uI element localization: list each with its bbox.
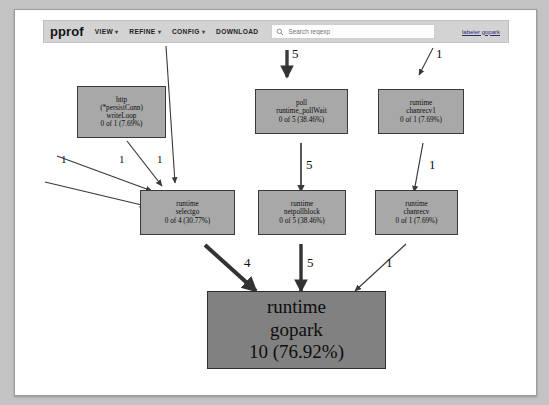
page-sheet: pprof VIEW▾ REFINE▾ CONFIG▾ DOWNLOAD lab: [14, 9, 537, 396]
node-runtime-selectgo[interactable]: runtime selectgo 0 of 4 (30.77%): [140, 190, 235, 235]
edge-label-chanrecv1-to-chanrecv: 1: [429, 157, 436, 173]
node-line: runtime: [405, 200, 427, 208]
edge-top-to-selectgo: [166, 46, 175, 183]
edge-label-writeloop-to-selectgo: 1: [157, 153, 163, 165]
edge-label-selectgo-to-gopark: 4: [244, 255, 251, 271]
node-line: 0 of 5 (38.46%): [279, 116, 325, 124]
edge-chanrecv-to-gopark: [355, 244, 406, 291]
node-line: 0 of 1 (7.69%): [101, 120, 143, 128]
node-line: selectgo: [176, 208, 200, 216]
edge-left-b-to-selectgo: [45, 182, 146, 206]
node-line: runtime: [267, 296, 326, 318]
edge-left-a-to-selectgo: [57, 156, 152, 191]
node-runtime-gopark[interactable]: runtime gopark 10 (76.92%): [207, 291, 386, 369]
node-line: chanrecv1: [406, 107, 436, 115]
edge-label-left-b: 1: [119, 153, 125, 165]
node-line: 0 of 4 (30.77%): [165, 217, 211, 225]
edge-label-chanrecv-to-gopark: 1: [386, 255, 393, 271]
edge-into-chanrecv1: [419, 48, 433, 75]
node-line: 10 (76.92%): [249, 341, 344, 363]
edge-label-left-a: 1: [61, 153, 67, 165]
node-line: runtime: [291, 200, 313, 208]
node-line: 0 of 1 (7.69%): [400, 116, 442, 124]
node-line: netpollblock: [284, 208, 320, 216]
node-http-writeloop[interactable]: http (*persistConn) writeLoop 0 of 1 (7.…: [77, 86, 166, 138]
node-line: 0 of 5 (38.46%): [279, 217, 325, 225]
edge-label-into-chanrecv1: 1: [436, 46, 443, 62]
node-runtime-netpollblock[interactable]: runtime netpollblock 0 of 5 (38.46%): [258, 190, 346, 235]
node-runtime-chanrecv[interactable]: runtime chanrecv 0 of 1 (7.69%): [375, 190, 458, 235]
node-runtime-chanrecv1[interactable]: runtime chanrecv1 0 of 1 (7.69%): [378, 89, 464, 134]
pprof-window: pprof VIEW▾ REFINE▾ CONFIG▾ DOWNLOAD lab: [0, 0, 549, 405]
node-line: poll: [296, 99, 307, 107]
node-line: runtime: [176, 200, 198, 208]
edge-label-into-poll: 5: [292, 46, 299, 62]
node-line: runtime: [410, 99, 432, 107]
node-poll-pollwait[interactable]: poll runtime_pollWait 0 of 5 (38.46%): [255, 89, 348, 134]
edge-chanrecv1-to-chanrecv: [414, 143, 423, 192]
edge-label-netpollblock-to-gopark: 5: [307, 255, 314, 271]
node-line: (*persistConn): [100, 104, 143, 112]
node-line: gopark: [270, 319, 323, 341]
node-line: http: [116, 96, 127, 104]
node-line: runtime_pollWait: [276, 107, 327, 115]
node-line: 0 of 1 (7.69%): [396, 217, 438, 225]
node-line: writeLoop: [107, 112, 137, 120]
node-line: chanrecv: [404, 208, 430, 216]
edge-label-poll-to-netpollblock: 5: [306, 157, 313, 173]
